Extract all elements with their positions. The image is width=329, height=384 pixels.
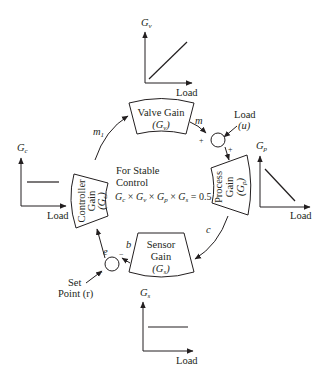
load-arrow	[224, 126, 237, 137]
c-arc	[195, 216, 228, 259]
stability-condition: For Stable Control Gc × Gv × Gp × Gs = 0…	[115, 165, 211, 204]
svg-text:For Stable: For Stable	[116, 165, 160, 176]
c-label: c	[206, 224, 211, 235]
valve-graph-ylabel: Gv	[141, 17, 153, 30]
controller-graph-ylabel: Gc	[17, 142, 29, 155]
controller-gain-block: Controller Gain (Gc)	[71, 174, 109, 228]
plus-sign-m: +	[199, 136, 204, 145]
process-graph-xlabel: Load	[290, 210, 312, 221]
valve-graph-xlabel: Load	[176, 87, 198, 98]
svg-text:Control: Control	[116, 177, 148, 188]
valve-block-label: Valve Gain	[138, 107, 186, 118]
plus-sign-load: +	[228, 145, 233, 154]
load-summing-junction	[211, 133, 225, 147]
svg-text:Gc × Gv × Gp × Gs = 0.5: Gc × Gv × Gp × Gs = 0.5	[115, 191, 211, 204]
plus-sign-setpoint: +	[98, 268, 103, 277]
e-label: e	[103, 246, 108, 257]
setpoint-label-line1: Set	[68, 277, 82, 288]
valve-gain-curve	[149, 42, 187, 79]
process-graph-ylabel: Gp	[256, 140, 268, 153]
load-input-symbol: (u)	[238, 120, 251, 132]
setpoint-label-line2: Point (r)	[58, 288, 94, 300]
controller-graph-xlabel: Load	[47, 210, 69, 221]
sensor-gain-block: Sensor Gain (Gs)	[129, 233, 194, 277]
svg-text:Gain: Gain	[151, 251, 172, 262]
valve-gain-block: Valve Gain (Gv)	[129, 99, 194, 135]
sensor-graph-ylabel: Gs	[140, 287, 151, 300]
svg-text:(Gc): (Gc)	[96, 192, 109, 210]
minus-sign-b: −	[119, 250, 124, 259]
controller-gain-graph: Gc Load	[17, 142, 69, 221]
sensor-graph-xlabel: Load	[176, 355, 198, 366]
load-input-label: Load	[234, 109, 256, 120]
process-gain-graph: Gp Load	[256, 140, 312, 221]
valve-gain-graph: Gv Load	[141, 17, 198, 98]
b-label: b	[126, 239, 131, 250]
feedback-loop-diagram: Gv Load Valve Gain (Gv) + + + − m1 m c b…	[0, 0, 329, 384]
svg-text:Sensor: Sensor	[147, 239, 176, 250]
process-gain-curve	[265, 169, 295, 201]
setpoint-summing-junction	[105, 257, 119, 271]
m-label: m	[195, 115, 203, 126]
svg-text:Process: Process	[213, 171, 224, 203]
process-gain-block: Process Gain (Gp)	[211, 155, 251, 215]
sensor-gain-graph: Gs Load	[140, 287, 198, 366]
svg-text:Gain: Gain	[224, 176, 235, 197]
m1-label: m1	[93, 126, 104, 139]
